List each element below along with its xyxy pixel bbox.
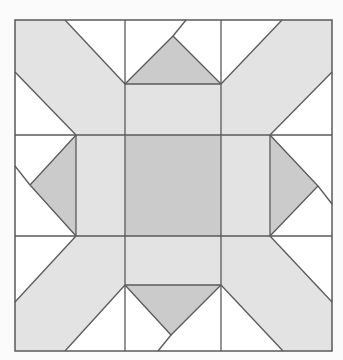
quilt-block-diagram bbox=[0, 0, 343, 360]
rect-top-center bbox=[125, 84, 221, 135]
rect-bottom-center bbox=[125, 236, 221, 285]
rect-left-center bbox=[76, 135, 125, 236]
rect-right-center bbox=[221, 135, 270, 236]
center-square bbox=[125, 135, 221, 236]
